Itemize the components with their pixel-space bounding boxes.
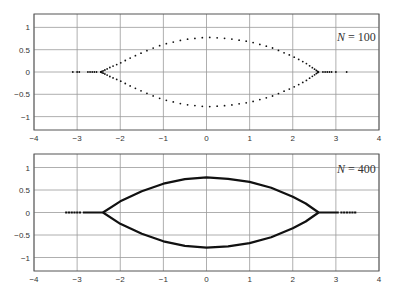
svg-text:0.5: 0.5 — [19, 186, 31, 195]
n-annotation: N = 400 — [336, 162, 376, 176]
y-tick-labels: 10.50−0.5−1 — [14, 23, 30, 121]
svg-text:1: 1 — [26, 164, 31, 173]
svg-text:−0.5: −0.5 — [14, 231, 30, 240]
svg-text:0: 0 — [26, 68, 31, 77]
svg-text:1: 1 — [26, 23, 31, 32]
x-tick-labels: −4−3−2−101234 — [29, 275, 381, 284]
svg-text:0: 0 — [204, 275, 209, 284]
svg-text:1: 1 — [247, 275, 252, 284]
svg-text:−1: −1 — [21, 113, 31, 122]
svg-text:−1: −1 — [21, 254, 31, 263]
chart-top-n100: −4−3−2−10123410.50−0.5−1N = 100 — [0, 0, 395, 148]
svg-text:0: 0 — [26, 209, 31, 218]
svg-text:0.5: 0.5 — [19, 46, 31, 55]
svg-text:2: 2 — [291, 275, 296, 284]
y-tick-labels: 10.50−0.5−1 — [14, 164, 30, 263]
n-annotation: N = 100 — [336, 30, 376, 44]
svg-text:−4: −4 — [29, 275, 39, 284]
svg-text:−1: −1 — [159, 275, 169, 284]
svg-text:−2: −2 — [116, 275, 126, 284]
chart-bottom-n400: −4−3−2−10123410.50−0.5−1N = 400 — [0, 140, 395, 297]
plot-top: −4−3−2−10123410.50−0.5−1N = 100 — [0, 0, 395, 148]
svg-text:4: 4 — [377, 275, 382, 284]
svg-text:−3: −3 — [73, 275, 83, 284]
svg-text:−0.5: −0.5 — [14, 90, 30, 99]
svg-text:3: 3 — [334, 275, 339, 284]
plot-bottom: −4−3−2−10123410.50−0.5−1N = 400 — [0, 140, 395, 297]
